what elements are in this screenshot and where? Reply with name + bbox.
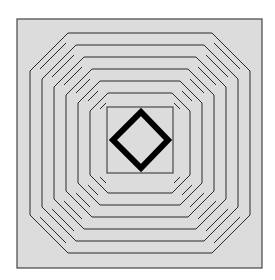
geometric-artwork <box>0 0 275 280</box>
